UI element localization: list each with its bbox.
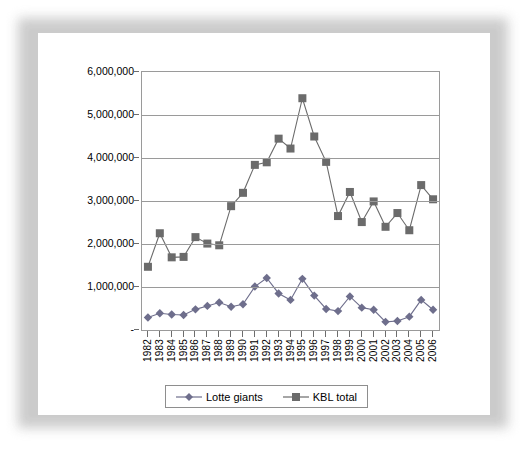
x-axis-tick-label: 1989	[225, 339, 236, 362]
gridline	[142, 158, 439, 159]
data-point-marker	[322, 158, 330, 166]
data-point-marker	[156, 309, 164, 317]
data-point-marker	[286, 296, 294, 304]
x-axis-tick	[183, 331, 184, 337]
data-point-marker	[298, 94, 306, 102]
data-point-marker	[215, 241, 223, 249]
data-point-marker	[393, 209, 401, 217]
x-axis-tick-label: 2005	[415, 339, 426, 362]
x-axis-tick	[218, 331, 219, 337]
data-point-marker	[180, 253, 188, 261]
chart-canvas: -1,000,0002,000,0003,000,0004,000,0005,0…	[38, 33, 490, 415]
x-axis-tick-label: 1995	[296, 339, 307, 362]
x-axis-tick	[396, 331, 397, 337]
x-axis-tick	[171, 331, 172, 337]
data-point-marker	[405, 312, 413, 320]
y-axis-tick	[134, 243, 139, 244]
legend-label-kbl-total: KBL total	[313, 391, 357, 403]
y-axis-tick	[134, 329, 139, 330]
x-axis-tick	[278, 331, 279, 337]
y-axis-tick	[134, 200, 139, 201]
square-marker-icon	[283, 391, 309, 403]
x-axis-tick	[194, 331, 195, 337]
x-axis-ticks	[141, 331, 440, 338]
gridline	[142, 115, 439, 116]
x-axis-tick	[301, 331, 302, 337]
data-point-marker	[263, 158, 271, 166]
plot-area	[141, 71, 440, 331]
x-axis-tick	[420, 331, 421, 337]
x-axis-tick-label: 1997	[320, 339, 331, 362]
x-axis-tick-label: 1983	[153, 339, 164, 362]
x-axis-tick	[313, 331, 314, 337]
data-point-marker	[227, 303, 235, 311]
x-axis-tick	[290, 331, 291, 337]
x-axis-tick	[266, 331, 267, 337]
x-axis-tick	[373, 331, 374, 337]
x-axis-tick-label: 1985	[177, 339, 188, 362]
x-axis-tick	[254, 331, 255, 337]
data-point-marker	[334, 212, 342, 220]
y-axis-tick	[134, 286, 139, 287]
x-axis-tick-label: 1994	[284, 339, 295, 362]
x-axis-tick-label: 1999	[343, 339, 354, 362]
data-point-marker	[239, 300, 247, 308]
y-axis-ticks	[38, 71, 141, 331]
data-point-marker	[168, 253, 176, 261]
x-axis-tick	[230, 331, 231, 337]
x-axis-tick-label: 1992	[260, 339, 271, 362]
data-point-marker	[144, 263, 152, 271]
x-axis-tick-label: 2003	[391, 339, 402, 362]
x-axis-tick	[159, 331, 160, 337]
data-point-marker	[429, 195, 437, 203]
x-axis-tick-label: 2001	[367, 339, 378, 362]
y-axis-tick	[134, 71, 139, 72]
data-point-marker	[393, 317, 401, 325]
gridline	[142, 287, 439, 288]
data-point-marker	[310, 133, 318, 141]
data-point-marker	[156, 229, 164, 237]
data-point-marker	[417, 181, 425, 189]
y-axis-tick	[134, 114, 139, 115]
x-axis-tick-label: 2000	[355, 339, 366, 362]
data-point-marker	[287, 145, 295, 153]
x-axis-tick-label: 1988	[213, 339, 224, 362]
gridline	[142, 201, 439, 202]
data-point-marker	[179, 311, 187, 319]
x-axis-tick	[325, 331, 326, 337]
data-point-marker	[405, 226, 413, 234]
data-point-marker	[191, 305, 199, 313]
x-axis-tick-label: 1987	[201, 339, 212, 362]
chart-screenshot: -1,000,0002,000,0003,000,0004,000,0005,0…	[0, 0, 529, 450]
x-axis-tick-label: 2004	[403, 339, 414, 362]
gridline	[142, 244, 439, 245]
x-axis-tick	[242, 331, 243, 337]
data-point-marker	[239, 189, 247, 197]
x-axis-tick-label: 1990	[236, 339, 247, 362]
legend-item-lotte-giants: Lotte giants	[176, 391, 263, 403]
x-axis-tick-label: 2006	[427, 339, 438, 362]
x-axis-tick-label: 1991	[248, 339, 259, 362]
y-axis-tick	[134, 157, 139, 158]
data-point-marker	[298, 275, 306, 283]
x-axis-labels: 1982198319841985198619871988198919901991…	[141, 339, 440, 381]
x-axis-tick-label: 1982	[141, 339, 152, 362]
data-point-marker	[346, 188, 354, 196]
x-axis-tick-label: 1998	[332, 339, 343, 362]
legend-item-kbl-total: KBL total	[283, 391, 357, 403]
data-point-marker	[275, 135, 283, 143]
x-axis-tick	[432, 331, 433, 337]
x-axis-tick	[408, 331, 409, 337]
x-axis-tick-label: 1984	[165, 339, 176, 362]
x-axis-tick-label: 2002	[379, 339, 390, 362]
data-point-marker	[144, 313, 152, 321]
diamond-marker-icon	[176, 391, 202, 403]
data-point-marker	[358, 218, 366, 226]
data-point-marker	[215, 298, 223, 306]
x-axis-tick	[337, 331, 338, 337]
x-axis-tick	[349, 331, 350, 337]
data-point-marker	[227, 202, 235, 210]
x-axis-tick	[206, 331, 207, 337]
x-axis-tick	[385, 331, 386, 337]
x-axis-tick-label: 1993	[272, 339, 283, 362]
